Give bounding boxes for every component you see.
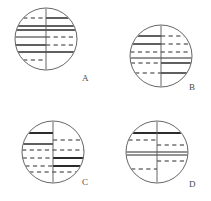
panel-label-b: B xyxy=(189,83,195,92)
panel-label-a: A xyxy=(82,74,89,83)
circle-panel-b xyxy=(127,22,195,90)
panel-label-c: C xyxy=(82,178,88,187)
figure-canvas: ABCD xyxy=(0,0,211,201)
circle-panel-a xyxy=(12,5,80,73)
circle-panel-d xyxy=(123,118,191,186)
circle-panel-c xyxy=(19,118,87,186)
panel-label-d: D xyxy=(189,180,196,189)
